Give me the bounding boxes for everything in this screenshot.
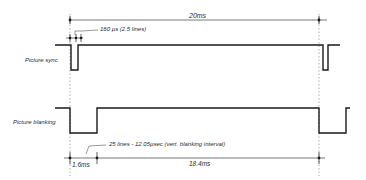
picture-sync-waveform [55,45,340,70]
timing-diagram [0,0,366,180]
period-label: 20ms [189,12,206,19]
active-duration-label: 18.4ms [189,161,210,168]
blanking-interval-label: 25 lines - 12.05µsec (vert. blanking int… [109,141,225,147]
sync-width-label: 160 µs (2.5 lines) [100,26,146,32]
sync-width-dimension [66,30,98,42]
picture-sync-label: Picture sync [25,57,58,63]
picture-blanking-label: Picture blanking [13,119,56,125]
picture-blanking-waveform [55,108,350,133]
blanking-duration-label: 1.6ms [72,162,90,169]
